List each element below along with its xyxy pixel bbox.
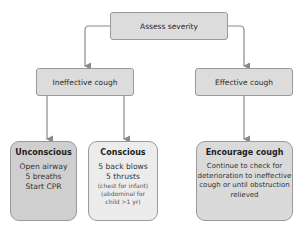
ineffective-cough-label: Ineffective cough — [53, 78, 118, 87]
encourage-cough-text: Continue to check for — [207, 162, 282, 172]
encourage-cough-text: deterioration to ineffective — [198, 172, 292, 182]
unconscious-title: Unconscious — [15, 148, 71, 157]
assess-severity-label: Assess severity — [140, 22, 198, 31]
unconscious-step: Open airway — [20, 162, 68, 172]
encourage-cough-node: Encourage cough Continue to check for de… — [196, 141, 293, 221]
conscious-note: child >1 yr) — [105, 198, 140, 206]
conscious-note: (abdominal for — [101, 190, 145, 198]
conscious-node: Conscious 5 back blows 5 thrusts (chest … — [88, 141, 158, 221]
unconscious-node: Unconscious Open airway 5 breaths Start … — [10, 141, 77, 221]
effective-cough-node: Effective cough — [195, 68, 293, 96]
conscious-step: 5 back blows — [98, 162, 147, 172]
unconscious-step: 5 breaths — [25, 172, 61, 182]
unconscious-step: Start CPR — [25, 182, 61, 192]
conscious-title: Conscious — [100, 148, 145, 157]
assess-severity-node: Assess severity — [110, 12, 228, 40]
encourage-cough-title: Encourage cough — [206, 148, 284, 157]
effective-cough-label: Effective cough — [215, 78, 273, 87]
encourage-cough-text: cough or until obstruction — [199, 181, 289, 191]
encourage-cough-text: relieved — [230, 191, 258, 201]
conscious-step: 5 thrusts — [106, 172, 140, 182]
ineffective-cough-node: Ineffective cough — [36, 68, 134, 96]
conscious-note: (chest for infant) — [98, 182, 148, 190]
